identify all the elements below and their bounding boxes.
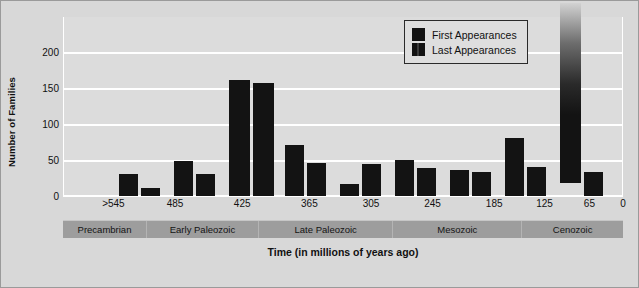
bar-last-appearances	[141, 188, 160, 196]
chart-figure: Number of Families 200150100500 299 Firs…	[0, 0, 639, 288]
bar-first-appearances	[450, 170, 469, 196]
bar-last-appearances	[253, 83, 274, 196]
x-tick-label: 0	[620, 198, 626, 209]
y-tick-label: 100	[25, 119, 59, 130]
legend-item-last-appearances: Last Appearances	[412, 43, 517, 56]
chart-legend: First Appearances Last Appearances	[404, 20, 528, 64]
bar-first-appearances	[119, 174, 138, 196]
x-axis-ticks: >545485425365305245185125650	[63, 198, 623, 214]
era-band-segment: Cenozoic	[522, 221, 623, 238]
bar-last-appearances	[362, 164, 381, 196]
era-band-segment: Mesozoic	[393, 221, 522, 238]
bar-last-appearances	[584, 172, 603, 196]
bar-first-appearances	[395, 160, 414, 196]
bar-first-appearances	[285, 145, 304, 196]
x-axis-title: Time (in millions of years ago)	[63, 246, 623, 258]
bar-last-appearances	[472, 172, 491, 196]
legend-label-last: Last Appearances	[432, 44, 516, 56]
bar-last-appearances	[417, 168, 436, 196]
legend-item-first-appearances: First Appearances	[412, 28, 517, 41]
bar-first-appearances	[340, 184, 359, 196]
geologic-era-band: PrecambrianEarly PaleozoicLate Paleozoic…	[63, 220, 623, 238]
era-band-segment: Early Paleozoic	[147, 221, 259, 238]
legend-swatch-icon-first	[412, 28, 425, 41]
era-band-segment: Late Paleozoic	[259, 221, 393, 238]
x-tick-label: 245	[424, 198, 441, 209]
x-tick-label: 65	[584, 198, 595, 209]
bar-first-appearances	[229, 80, 250, 196]
y-tick-label: 200	[25, 47, 59, 58]
y-axis-title-text: Number of Families	[6, 77, 17, 167]
x-tick-label: 305	[363, 198, 380, 209]
legend-swatch-icon-last	[412, 43, 425, 56]
y-tick-label: 150	[25, 83, 59, 94]
x-tick-label: 365	[301, 198, 318, 209]
x-tick-label: 485	[167, 198, 184, 209]
bar-first-appearances: 299	[560, 3, 581, 183]
bar-last-appearances	[307, 163, 326, 196]
bar-first-appearances	[505, 138, 524, 196]
x-tick-label: 125	[536, 198, 553, 209]
y-axis-title: Number of Families	[3, 47, 19, 197]
x-tick-label: >545	[102, 198, 125, 209]
bar-series-layer: 299	[63, 17, 623, 196]
y-axis-ticks: 200150100500	[19, 1, 59, 288]
y-tick-label: 50	[25, 155, 59, 166]
legend-label-first: First Appearances	[432, 29, 517, 41]
era-band-segment: Precambrian	[63, 221, 147, 238]
x-tick-label: 185	[486, 198, 503, 209]
x-tick-label: 425	[234, 198, 251, 209]
y-tick-label: 0	[25, 191, 59, 202]
bar-last-appearances	[196, 174, 215, 196]
bar-last-appearances	[527, 167, 546, 196]
bar-first-appearances	[174, 161, 193, 196]
